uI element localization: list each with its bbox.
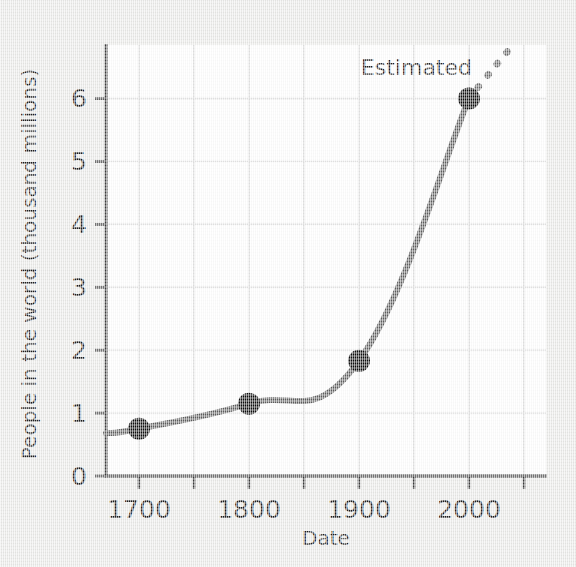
x-tick-label: 1900 — [327, 495, 391, 524]
x-tick-label: 1700 — [107, 495, 171, 524]
chart-canvas: 0123456 1700180019002000 Date People in … — [0, 0, 576, 567]
data-point-marker — [458, 87, 480, 109]
y-tick-label: 6 — [71, 84, 87, 113]
y-tick-label: 1 — [71, 399, 87, 428]
data-point-marker — [238, 393, 260, 415]
data-point-marker — [128, 418, 150, 440]
x-tick-label: 2000 — [437, 495, 501, 524]
y-axis-tick-labels: 0123456 — [71, 84, 87, 491]
x-axis-tick-labels: 1700180019002000 — [107, 495, 501, 524]
x-tick-label: 1800 — [217, 495, 281, 524]
population-chart-figure: 0123456 1700180019002000 Date People in … — [0, 0, 576, 567]
x-axis-title: Date — [302, 526, 350, 550]
y-tick-label: 2 — [71, 336, 87, 365]
x-axis-ticks — [139, 476, 524, 489]
y-tick-label: 4 — [71, 210, 87, 239]
plot-area-background — [106, 45, 546, 476]
y-axis-ticks — [95, 98, 106, 476]
y-tick-label: 0 — [71, 462, 87, 491]
y-tick-label: 3 — [71, 273, 87, 302]
estimated-annotation-label: Estimated — [361, 55, 472, 80]
y-axis-title: People in the world (thousand millions) — [17, 69, 41, 459]
y-tick-label: 5 — [71, 147, 87, 176]
data-point-marker — [348, 350, 370, 372]
